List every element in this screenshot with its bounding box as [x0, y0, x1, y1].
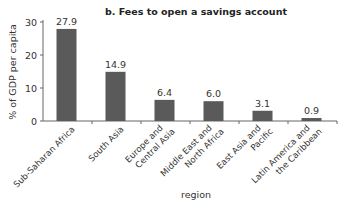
chart-title: b. Fees to open a savings account [105, 6, 287, 17]
data-label: 14.9 [105, 59, 126, 70]
bar [204, 101, 224, 121]
bar [106, 72, 126, 121]
category-label-line: South Asia [86, 124, 125, 163]
category-labels: Sub-Saharan AfricaSouth AsiaEurope andCe… [11, 118, 323, 193]
y-tick-label: 10 [25, 83, 37, 94]
bar [57, 29, 77, 121]
data-labels: 27.914.96.46.03.10.9 [56, 16, 319, 116]
bars [57, 29, 322, 121]
bar [302, 118, 322, 121]
y-tick-label: 20 [25, 50, 37, 61]
category-label: Sub-Saharan Africa [11, 124, 76, 189]
bar [253, 111, 273, 121]
category-label-text: Sub-Saharan Africa [11, 124, 76, 189]
category-label-text: South Asia [86, 124, 125, 163]
data-label: 27.9 [56, 16, 77, 27]
data-label: 6.0 [206, 88, 221, 99]
y-tick-label: 0 [31, 116, 37, 127]
data-label: 3.1 [255, 98, 270, 109]
data-label: 0.9 [304, 105, 319, 116]
bar [155, 100, 175, 121]
category-label-line: Sub-Saharan Africa [11, 124, 76, 189]
bar-chart: b. Fees to open a savings account % of G… [0, 0, 343, 206]
x-axis-label: region [181, 189, 211, 200]
data-label: 6.4 [157, 87, 172, 98]
y-axis-label: % of GDP per capita [7, 24, 18, 120]
category-label: South Asia [86, 124, 125, 163]
y-tick-label: 30 [25, 17, 37, 28]
